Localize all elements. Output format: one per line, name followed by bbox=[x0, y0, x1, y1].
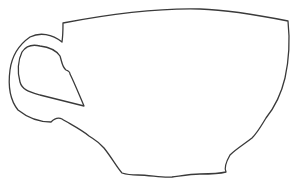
teacup-drawing-canvas bbox=[0, 0, 297, 183]
teacup-handle-inner-path bbox=[18, 45, 84, 106]
teacup-outline-path bbox=[9, 9, 289, 177]
teacup-outline-icon bbox=[0, 0, 297, 183]
